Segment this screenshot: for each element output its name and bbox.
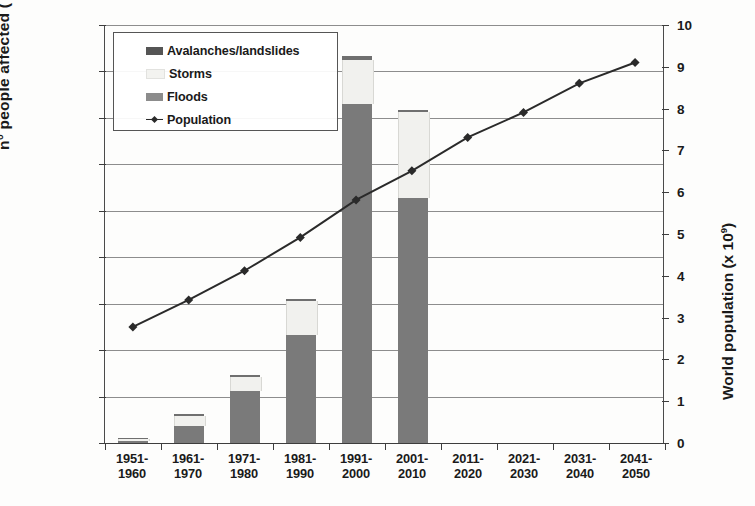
right-tick-label: 7 <box>677 143 717 158</box>
left-axis-title-main: n° people affected ( x 10 <box>0 0 12 150</box>
bar-segment-storms <box>286 301 318 335</box>
left-tick-mark <box>99 304 106 305</box>
x-tick-mark <box>105 443 106 450</box>
right-axis-title-end: ) <box>719 223 736 228</box>
x-tick-mark <box>273 443 274 450</box>
legend-item-label: Population <box>167 113 231 127</box>
legend-item: Avalanches/landslides <box>114 39 337 62</box>
bar-segment-avalanches <box>342 56 372 59</box>
right-tick-label: 4 <box>677 268 717 283</box>
gridline <box>105 304 663 305</box>
left-tick-mark <box>99 71 106 72</box>
x-tick-mark <box>609 443 610 450</box>
x-tick-mark <box>329 443 330 450</box>
bar-segment-avalanches <box>174 414 204 416</box>
legend-item-label: Floods <box>167 90 208 104</box>
left-tick-mark <box>99 350 106 351</box>
gridline <box>105 257 663 258</box>
bar-segment-floods <box>398 198 428 443</box>
bar-stack <box>118 438 148 443</box>
bar-segment-storms <box>230 377 262 391</box>
x-tick-mark <box>385 443 386 450</box>
gridline <box>105 164 663 165</box>
bar-segment-avalanches <box>230 375 260 377</box>
bar-stack <box>342 56 372 443</box>
storms-swatch-icon <box>146 69 165 79</box>
left-axis-title: n° people affected ( x 106) <box>0 0 13 150</box>
x-tick-mark <box>553 443 554 450</box>
population-data-point <box>575 79 584 88</box>
x-tick-mark <box>497 443 498 450</box>
bar-stack <box>174 414 204 443</box>
gridline <box>105 211 663 212</box>
legend-item-label: Avalanches/landslides <box>167 44 300 58</box>
bar-segment-avalanches <box>118 438 148 439</box>
bar-segment-floods <box>342 104 372 443</box>
bar-segment-storms <box>174 416 206 425</box>
gridline <box>105 443 663 444</box>
right-axis-title-main: World population (x 10 <box>719 233 736 400</box>
bar-segment-storms <box>342 60 374 104</box>
legend-item: Floods <box>114 85 337 108</box>
avalanches-swatch-icon <box>146 47 163 55</box>
chart-legend: Avalanches/landslidesStormsFloodsPopulat… <box>113 32 338 131</box>
x-axis-label-line1: 2041- <box>601 451 671 466</box>
x-tick-mark <box>161 443 162 450</box>
right-tick-mark <box>662 150 669 151</box>
right-tick-label: 6 <box>677 185 717 200</box>
population-data-point <box>519 108 528 117</box>
left-tick-mark <box>99 118 106 119</box>
bar-segment-avalanches <box>398 110 428 112</box>
bar-stack <box>230 375 260 444</box>
right-tick-label: 5 <box>677 227 717 242</box>
population-data-point <box>296 233 305 242</box>
chart-figure: n° people affected ( x 106) World popula… <box>0 0 755 506</box>
right-tick-label: 0 <box>677 436 717 451</box>
floods-swatch-icon <box>146 93 163 101</box>
bar-segment-storms <box>398 112 430 198</box>
bar-stack <box>286 299 316 443</box>
right-tick-mark <box>662 234 669 235</box>
population-data-point <box>240 266 249 275</box>
x-axis-label: 2041-2050 <box>601 451 671 481</box>
right-tick-mark <box>662 276 669 277</box>
left-tick-mark <box>99 25 106 26</box>
population-data-point <box>463 133 472 142</box>
right-tick-label: 2 <box>677 352 717 367</box>
bar-segment-avalanches <box>286 299 316 301</box>
gridline <box>105 397 663 398</box>
right-tick-label: 1 <box>677 394 717 409</box>
bar-segment-floods <box>286 335 316 443</box>
gridline <box>105 25 663 26</box>
right-tick-label: 8 <box>677 101 717 116</box>
legend-item: Storms <box>114 62 337 85</box>
x-axis-label-line2: 2050 <box>601 466 671 481</box>
right-tick-label: 10 <box>677 18 717 33</box>
right-tick-mark <box>662 401 669 402</box>
right-tick-label: 3 <box>677 310 717 325</box>
left-tick-mark <box>99 164 106 165</box>
bar-segment-floods <box>118 441 148 443</box>
left-tick-mark <box>99 257 106 258</box>
gridline <box>105 350 663 351</box>
right-tick-mark <box>662 109 669 110</box>
bar-segment-floods <box>230 391 260 443</box>
right-tick-mark <box>662 67 669 68</box>
bar-stack <box>398 110 428 443</box>
right-tick-mark <box>662 318 669 319</box>
x-tick-mark <box>665 443 666 450</box>
left-tick-mark <box>99 211 106 212</box>
bar-segment-floods <box>174 426 204 443</box>
right-tick-label: 9 <box>677 59 717 74</box>
right-axis-title: World population (x 109) <box>718 70 737 400</box>
x-tick-mark <box>441 443 442 450</box>
left-tick-mark <box>99 397 106 398</box>
right-tick-mark <box>662 25 669 26</box>
legend-item: Population <box>114 108 337 131</box>
right-tick-mark <box>662 192 669 193</box>
population-data-point <box>128 322 137 331</box>
right-axis-title-exponent: 9 <box>718 228 729 233</box>
population-data-point <box>631 58 640 67</box>
x-tick-mark <box>217 443 218 450</box>
legend-item-label: Storms <box>169 67 212 81</box>
